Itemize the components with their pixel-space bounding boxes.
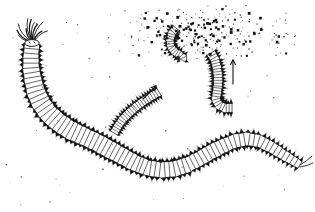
figure-canvas	[0, 0, 315, 212]
arrow-up	[231, 60, 236, 84]
gamete-cloud	[110, 5, 295, 59]
worm-spawning-illustration	[0, 0, 315, 212]
swimming-epitoke-lower	[108, 84, 163, 136]
swimming-epitoke-right	[204, 50, 232, 118]
head-tentacles	[17, 19, 47, 47]
